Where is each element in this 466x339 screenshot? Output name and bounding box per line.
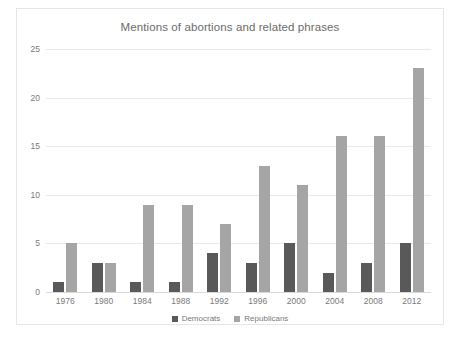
bar-group-2004 xyxy=(316,49,355,292)
chart-legend: DemocratsRepublicans xyxy=(17,314,443,323)
bar-democrats-2008[interactable] xyxy=(361,263,372,292)
bar-group-1992 xyxy=(200,49,239,292)
y-axis-tick-label: 5 xyxy=(35,238,40,248)
bar-democrats-1996[interactable] xyxy=(246,263,257,292)
x-axis-tick-label: 2000 xyxy=(277,296,316,306)
legend-swatch-icon xyxy=(234,316,240,322)
legend-item-democrats[interactable]: Democrats xyxy=(172,314,221,323)
y-axis-tick-label: 10 xyxy=(31,190,40,200)
x-axis-tick-label: 1988 xyxy=(162,296,201,306)
bar-group-1988 xyxy=(162,49,201,292)
bar-republicans-1976[interactable] xyxy=(66,243,77,292)
bar-republicans-2012[interactable] xyxy=(413,68,424,292)
bar-democrats-1984[interactable] xyxy=(130,282,141,292)
bar-democrats-2004[interactable] xyxy=(323,273,334,292)
x-axis-tick-label: 1984 xyxy=(123,296,162,306)
gridline-0: 0 xyxy=(46,292,431,293)
bar-republicans-2000[interactable] xyxy=(297,185,308,292)
x-axis-tick-label: 1976 xyxy=(46,296,85,306)
legend-swatch-icon xyxy=(172,316,178,322)
bar-democrats-1976[interactable] xyxy=(53,282,64,292)
chart-title: Mentions of abortions and related phrase… xyxy=(17,21,443,33)
bar-republicans-1992[interactable] xyxy=(220,224,231,292)
bar-group-1984 xyxy=(123,49,162,292)
x-axis-labels: 1976198019841988199219962000200420082012 xyxy=(46,296,431,306)
bar-republicans-1984[interactable] xyxy=(143,205,154,292)
chart-card: Mentions of abortions and related phrase… xyxy=(16,8,444,325)
bar-republicans-1996[interactable] xyxy=(259,166,270,292)
bar-republicans-2008[interactable] xyxy=(374,136,385,292)
bar-group-2000 xyxy=(277,49,316,292)
bar-group-1996 xyxy=(239,49,278,292)
legend-label: Democrats xyxy=(182,314,221,323)
legend-item-republicans[interactable]: Republicans xyxy=(234,314,288,323)
y-axis-tick-label: 20 xyxy=(31,93,40,103)
bar-republicans-1980[interactable] xyxy=(105,263,116,292)
x-axis-tick-label: 2004 xyxy=(316,296,355,306)
x-axis-tick-label: 1996 xyxy=(239,296,278,306)
bar-democrats-2012[interactable] xyxy=(400,243,411,292)
bar-group-1980 xyxy=(85,49,124,292)
x-axis-tick-label: 2012 xyxy=(393,296,432,306)
plot-area: 0510152025 xyxy=(46,49,431,292)
bar-democrats-1988[interactable] xyxy=(169,282,180,292)
bar-democrats-1980[interactable] xyxy=(92,263,103,292)
y-axis-tick-label: 25 xyxy=(31,44,40,54)
x-axis-tick-label: 2008 xyxy=(354,296,393,306)
x-axis-tick-label: 1992 xyxy=(200,296,239,306)
bar-series-container xyxy=(46,49,431,292)
bar-democrats-2000[interactable] xyxy=(284,243,295,292)
bar-republicans-2004[interactable] xyxy=(336,136,347,292)
legend-label: Republicans xyxy=(244,314,288,323)
bar-group-2008 xyxy=(354,49,393,292)
y-axis-tick-label: 15 xyxy=(31,141,40,151)
x-axis-tick-label: 1980 xyxy=(85,296,124,306)
bar-group-2012 xyxy=(393,49,432,292)
bar-republicans-1988[interactable] xyxy=(182,205,193,292)
bar-group-1976 xyxy=(46,49,85,292)
bar-democrats-1992[interactable] xyxy=(207,253,218,292)
y-axis-tick-label: 0 xyxy=(35,287,40,297)
